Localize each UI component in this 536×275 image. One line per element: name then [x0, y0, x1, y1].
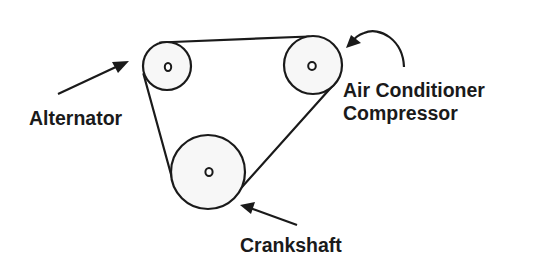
alternator-hub [165, 63, 171, 71]
crankshaft-label: Crankshaft [240, 234, 342, 256]
crankshaft-hub [205, 168, 212, 176]
ac-compressor-label-line1: Air Conditioner [343, 79, 485, 101]
alternator-label: Alternator [29, 107, 123, 129]
alternator-arrow-icon [58, 61, 129, 94]
ac-compressor-hub [308, 62, 316, 70]
crankshaft-arrow-icon [240, 202, 297, 225]
crankshaft-pulley [171, 135, 245, 209]
belt-diagram: Alternator Air Conditioner Compressor Cr… [0, 0, 536, 275]
belt-top-segment [160, 37, 309, 43]
ac-compressor-arrow-icon [346, 31, 404, 67]
ac-compressor-label-line2: Compressor [343, 102, 458, 124]
ac-compressor-pulley [284, 36, 342, 94]
belt-right-segment [242, 82, 336, 187]
alternator-pulley [143, 42, 191, 90]
